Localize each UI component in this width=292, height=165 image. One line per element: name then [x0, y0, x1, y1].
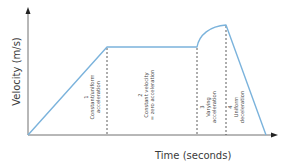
- phase-label-line2: = zero acceleration: [149, 69, 155, 121]
- phase-3-label: 3 Varying acceleration: [199, 87, 217, 127]
- x-axis-arrow-icon: [271, 133, 278, 138]
- phase-4-label: 4 Uniform deceleration: [227, 87, 245, 127]
- y-axis-arrow-icon: [26, 7, 31, 14]
- phase-label-line2: acceleration: [95, 73, 101, 121]
- phase-label-line2: deceleration: [239, 87, 245, 127]
- phase-label-line2: acceleration: [211, 87, 217, 127]
- x-axis-label: Time (seconds): [155, 150, 231, 161]
- y-axis-label: Velocity (m/s): [11, 34, 22, 110]
- phase-1-label: 1 Constant/uniform acceleration: [83, 73, 101, 121]
- phase-2-label: 2 Constant velocity = zero acceleration: [137, 69, 155, 121]
